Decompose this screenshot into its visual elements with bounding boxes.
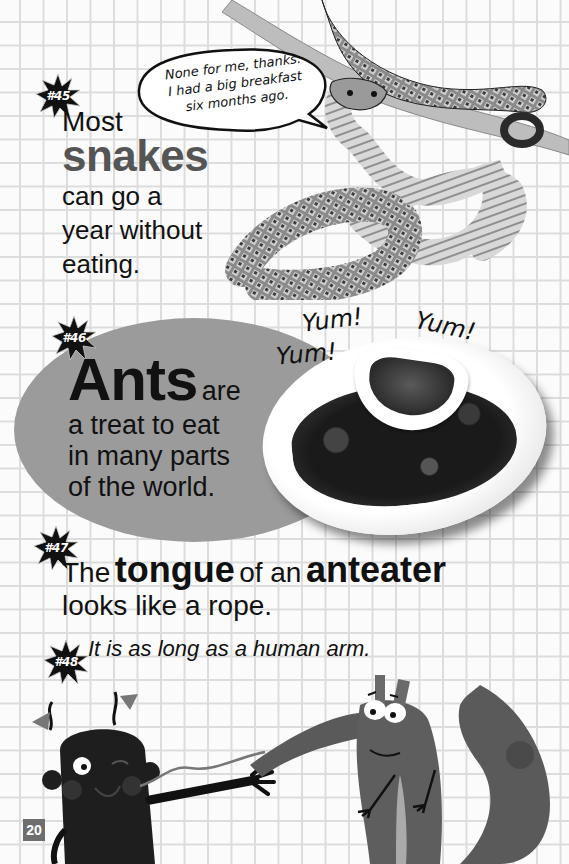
- fact-45-line3: can go a: [62, 180, 208, 212]
- fact-47-the: The: [62, 557, 110, 588]
- fact-47-line2: looks like a rope.: [62, 592, 446, 620]
- fact-45-highlight: snakes: [62, 134, 208, 178]
- yum-label: Yum!: [301, 302, 365, 337]
- fact-45-line5: eating.: [62, 248, 208, 280]
- fact-48-text: It is as long as a human arm.: [88, 636, 370, 662]
- fact-number: #48: [44, 640, 88, 684]
- fact-46-line4: of the world.: [68, 472, 241, 503]
- fact-47-text: The tongue of an anteater looks like a r…: [62, 552, 446, 620]
- fact-47-highlight-tongue: tongue: [115, 549, 235, 590]
- fact-46-are: are: [202, 376, 241, 406]
- fact-47-of-an: of an: [239, 557, 301, 588]
- fact-45-line4: year without: [62, 214, 208, 246]
- fact-45-text: Most snakes can go a year without eating…: [62, 108, 208, 280]
- fact-46-line3: in many parts: [68, 441, 241, 472]
- fact-46-highlight: Ants: [68, 346, 197, 413]
- fact-46-line2: a treat to eat: [68, 410, 241, 441]
- yum-label: Yum!: [275, 337, 338, 370]
- page-number: 20: [23, 819, 45, 841]
- fact-47-highlight-anteater: anteater: [306, 549, 446, 590]
- anteater-image: [250, 665, 569, 864]
- fact-badge-48: #48: [44, 640, 88, 684]
- fact-46-text: Ants are a treat to eat in many parts of…: [68, 350, 241, 503]
